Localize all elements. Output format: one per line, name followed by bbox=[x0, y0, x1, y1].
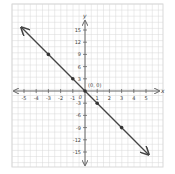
data-point bbox=[71, 77, 75, 81]
x-tick-label: 4 bbox=[132, 95, 135, 101]
x-tick-label: 2 bbox=[108, 95, 111, 101]
y-tick-label: 15 bbox=[75, 27, 81, 33]
y-tick-label: -6 bbox=[76, 112, 81, 118]
x-tick-label: -4 bbox=[34, 95, 39, 101]
x-tick-label: -5 bbox=[22, 95, 27, 101]
origin-label: 0 bbox=[79, 94, 82, 100]
data-point bbox=[47, 53, 51, 57]
chart-svg: xy-5-4-3-2-1123451512963-3-6-9-12-150(0,… bbox=[0, 0, 175, 174]
x-tick-label: 5 bbox=[144, 95, 147, 101]
y-axis-label: y bbox=[82, 12, 87, 20]
y-tick-label: -15 bbox=[73, 149, 81, 155]
y-tick-label: -3 bbox=[76, 100, 81, 106]
y-tick-label: 6 bbox=[78, 64, 81, 70]
y-tick-label: 12 bbox=[75, 39, 81, 45]
x-tick-label: -3 bbox=[46, 95, 51, 101]
x-tick-label: 3 bbox=[120, 95, 123, 101]
y-tick-label: -9 bbox=[76, 125, 81, 131]
y-tick-label: 3 bbox=[78, 76, 81, 82]
x-tick-label: -2 bbox=[58, 95, 63, 101]
x-tick-label: 1 bbox=[96, 95, 99, 101]
coordinate-plane-chart: xy-5-4-3-2-1123451512963-3-6-9-12-150(0,… bbox=[0, 0, 175, 174]
point-annotation: (0, 0) bbox=[88, 82, 101, 88]
x-tick-label: -1 bbox=[70, 95, 75, 101]
data-point bbox=[83, 89, 87, 93]
y-tick-label: -12 bbox=[73, 137, 81, 143]
y-tick-label: 9 bbox=[78, 51, 81, 57]
data-point bbox=[120, 126, 124, 130]
x-axis-label: x bbox=[160, 87, 165, 94]
data-point bbox=[95, 101, 99, 105]
